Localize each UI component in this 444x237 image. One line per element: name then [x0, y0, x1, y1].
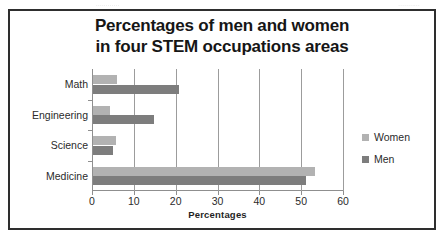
- bar-medicine-women: [93, 167, 315, 176]
- value-tick-label-40: 40: [246, 195, 272, 207]
- x-axis-title: Percentages: [92, 209, 343, 220]
- bar-math-men: [93, 85, 179, 94]
- category-label-science: Science: [8, 139, 88, 151]
- value-tick-label-60: 60: [330, 195, 356, 207]
- bar-science-women: [93, 136, 116, 145]
- bar-science-men: [93, 146, 113, 155]
- chart-figure: Percentages of men and women in four STE…: [10, 11, 434, 228]
- value-tick-label-20: 20: [163, 195, 189, 207]
- chart-title-line-1: Percentages of men and women: [95, 16, 349, 35]
- bar-medicine-men: [93, 176, 306, 185]
- category-tick-3: [88, 161, 92, 162]
- scan-artifact-top-right: ...........: [300, 0, 420, 9]
- chart-page: ............ ........... Percentages of …: [0, 0, 444, 237]
- category-tick-2: [88, 130, 92, 131]
- value-tick-label-10: 10: [121, 195, 147, 207]
- category-label-math: Math: [8, 78, 88, 90]
- scan-artifact-top-left: ............: [96, 0, 206, 9]
- category-axis-labels: Math Engineering Science Medicine: [10, 69, 88, 191]
- legend-item-men: Men: [362, 151, 410, 167]
- value-tick-label-30: 30: [205, 195, 231, 207]
- legend-swatch-women-icon: [362, 134, 369, 141]
- chart-title-line-2: in four STEM occupations areas: [48, 36, 396, 57]
- bar-math-women: [93, 75, 117, 84]
- legend-item-women: Women: [362, 129, 410, 145]
- category-label-engineering: Engineering: [8, 109, 88, 121]
- value-tick-label-0: 0: [79, 195, 105, 207]
- chart-title: Percentages of men and women in four STE…: [48, 15, 396, 57]
- legend-label-women: Women: [374, 131, 410, 143]
- gridline-60: [343, 69, 344, 191]
- legend-label-men: Men: [374, 153, 394, 165]
- chart-legend: Women Men: [362, 129, 410, 173]
- bar-engineering-men: [93, 115, 154, 124]
- category-label-medicine: Medicine: [8, 170, 88, 182]
- category-tick-1: [88, 100, 92, 101]
- plot-area: [92, 69, 343, 191]
- bar-engineering-women: [93, 106, 110, 115]
- value-tick-label-50: 50: [288, 195, 314, 207]
- legend-swatch-men-icon: [362, 156, 369, 163]
